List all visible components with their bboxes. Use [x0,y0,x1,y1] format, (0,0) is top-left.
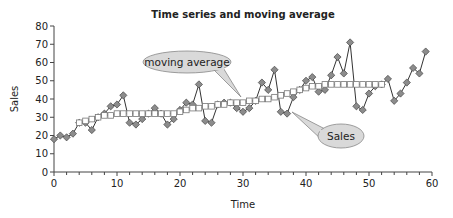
sales-marker [302,77,309,84]
ma-marker [190,105,196,111]
sales-marker [126,119,133,126]
ma-marker [291,89,297,95]
sales-marker [277,108,284,115]
ma-marker [114,111,120,117]
ma-marker [89,116,95,122]
ma-marker [133,111,139,117]
ma-marker [284,91,290,97]
ma-marker [335,82,341,88]
ma-marker [259,96,265,102]
sales-marker [284,110,291,117]
sales-marker [340,70,347,77]
ma-marker [221,102,227,108]
y-tick-label: 70 [35,39,48,50]
y-tick-label: 20 [35,130,48,141]
sales-marker [328,72,335,79]
x-tick-label: 40 [300,178,313,189]
ma-marker [177,109,183,115]
chart-title: Time series and moving average [151,9,335,20]
x-axis: 0102030405060 [51,172,439,189]
ma-marker [215,102,221,108]
time-series-chart: Time series and moving average 010203040… [0,0,453,218]
y-axis: 01020304050607080 [35,21,54,178]
sales-marker [63,134,70,141]
ma-marker [76,120,82,126]
sales-marker [208,119,215,126]
ma-marker [196,105,202,111]
ma-marker [247,98,253,104]
y-tick-label: 60 [35,57,48,68]
ma-marker [366,82,372,88]
ma-marker [328,82,334,88]
sales-marker [422,48,429,55]
ma-marker [316,83,322,89]
x-tick-label: 60 [426,178,439,189]
x-tick-label: 20 [174,178,187,189]
y-tick-label: 30 [35,112,48,123]
sales-marker [57,132,64,139]
x-tick-label: 50 [363,178,376,189]
y-tick-label: 50 [35,75,48,86]
series-sales [50,39,429,143]
y-tick-label: 80 [35,21,48,32]
ma-marker [139,111,145,117]
ma-marker [165,111,171,117]
x-tick-label: 10 [111,178,124,189]
sales-marker [69,130,76,137]
sales-marker [120,92,127,99]
y-tick-label: 0 [42,167,48,178]
ma-marker [102,113,108,119]
y-tick-label: 10 [35,148,48,159]
ma-marker [158,111,164,117]
ma-marker [272,94,278,100]
ma-marker [265,96,271,102]
plot-area [50,39,429,143]
series-moving-average [76,82,384,126]
ma-marker [379,82,385,88]
ma-marker [171,111,177,117]
ma-marker [95,114,101,120]
ma-marker [297,87,303,93]
sales-marker [309,74,316,81]
x-tick-label: 0 [51,178,57,189]
x-axis-label: Time [230,199,255,210]
ma-marker [240,100,246,106]
ma-marker [278,93,284,99]
y-axis-label: Sales [9,86,20,113]
sales-marker [334,53,341,60]
sales-marker [239,108,246,115]
ma-marker [234,100,240,106]
sales-marker [403,79,410,86]
ma-marker [209,104,215,110]
callout-sales: Sales [292,112,364,148]
ma-marker [341,82,347,88]
ma-marker [373,82,379,88]
ma-marker [127,111,133,117]
ma-marker [354,82,360,88]
sales-marker [195,81,202,88]
sales-marker [202,117,209,124]
ma-marker [146,111,152,117]
ma-marker [347,82,353,88]
ma-marker [108,113,114,119]
x-tick-label: 30 [237,178,250,189]
callout-moving-average: moving average [143,51,241,97]
callout-label-sales: Sales [327,130,355,142]
ma-marker [83,118,89,124]
ma-marker [310,83,316,89]
ma-marker [152,111,158,117]
sales-marker [113,101,120,108]
ma-marker [360,82,366,88]
ma-marker [202,104,208,110]
ma-marker [184,107,190,113]
ma-marker [303,85,309,91]
sales-marker [353,103,360,110]
sales-marker [271,66,278,73]
sales-marker [347,39,354,46]
ma-marker [121,111,127,117]
sales-marker [359,106,366,113]
y-tick-label: 40 [35,94,48,105]
ma-marker [253,98,259,104]
sales-marker [50,136,57,143]
ma-marker [228,100,234,106]
